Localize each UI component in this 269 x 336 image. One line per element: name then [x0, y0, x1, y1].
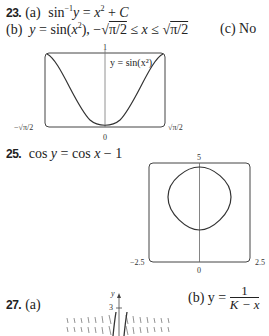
answer-27b-lhs: y =	[208, 290, 226, 305]
problem-27-part-b: (b) y = 1 K − x	[188, 284, 259, 311]
part-label: (a)	[25, 297, 41, 312]
part-label: (b)	[188, 290, 204, 305]
slope-field	[67, 315, 169, 335]
problem-27-part-a: 27. (a)	[6, 295, 41, 313]
graph-25-x-left-tick: −2.5	[130, 258, 145, 267]
graph-27-solution-curve-1	[113, 312, 116, 336]
graph-27-y-tick: 3	[109, 303, 113, 312]
graph-25-origin-tick: 0	[197, 266, 201, 275]
problem-number: 27.	[6, 298, 21, 312]
problem-25: 25. cos y = cos x − 1	[6, 144, 122, 162]
graph-27-y-axis-label: y	[111, 289, 115, 298]
y-axis-arrow-icon	[117, 293, 121, 298]
problem-number: 25.	[6, 147, 21, 161]
fraction-denominator: K − x	[230, 297, 260, 311]
graph-23-x-right-tick: √π/2	[168, 123, 183, 132]
graph-23-origin-tick: 0	[103, 133, 107, 142]
graph-25-x-right-tick: 2.5	[255, 258, 265, 267]
graph-27-solution-curve-2	[124, 312, 127, 336]
graph-23-curve-label: y = sin(x²)	[110, 57, 152, 68]
fraction-numerator: 1	[230, 284, 260, 297]
graph-23-x-left-tick: −√π/2	[14, 123, 33, 132]
answer-25: cos y = cos x − 1	[25, 146, 122, 161]
graph-25-y-top-tick: 5	[197, 153, 201, 162]
answer-27b-fraction: 1 K − x	[230, 284, 260, 311]
graph-23-y-top-tick: 1	[103, 43, 107, 52]
